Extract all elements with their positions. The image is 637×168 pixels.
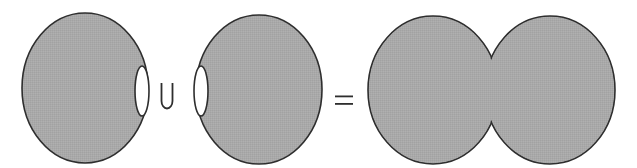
left-blob-hole xyxy=(135,66,149,116)
right-blob-hole xyxy=(194,66,208,116)
left-blob xyxy=(22,13,149,163)
diagram-svg: ∪ = xyxy=(0,0,637,168)
left-blob-body xyxy=(22,13,148,163)
right-blob-body xyxy=(196,15,322,164)
right-blob xyxy=(194,15,322,164)
merged-blob xyxy=(368,16,615,164)
equals-symbol-icon xyxy=(335,96,353,105)
union-diagram: ∪ = xyxy=(0,0,637,168)
union-symbol-icon xyxy=(162,83,173,109)
